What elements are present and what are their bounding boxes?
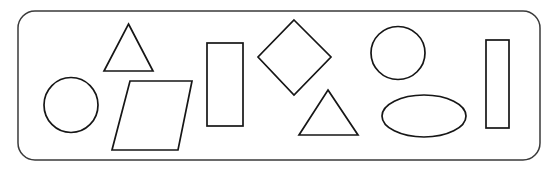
- shapes-svg: [0, 0, 554, 171]
- shape-canvas: [0, 0, 554, 171]
- rounded-rectangle-panel: [18, 11, 540, 160]
